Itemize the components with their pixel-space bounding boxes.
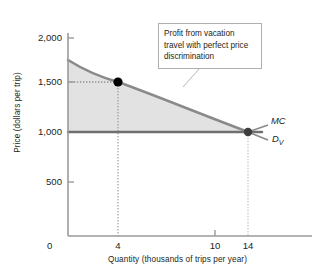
profit-callout-box: Profit from vacation travel with perfect… [158,23,262,69]
callout-leader-line [183,68,200,87]
y-tick-label-500: 500 [20,176,62,187]
mc-demand-intersection-point [244,128,252,136]
y-tick-label-1000: 1,000 [20,126,62,137]
dv-curve-label-main: D [272,133,279,144]
y-tick-label-2000: 2,000 [20,32,62,43]
origin-label: 0 [47,240,52,251]
y-axis-title: Price (dollars per trip) [13,58,22,168]
x-tick-label-4: 4 [103,240,133,251]
x-tick-label-10: 10 [200,240,230,251]
y-tick-label-1500: 1,500 [20,76,62,87]
chart-figure: Price (dollars per trip) Quantity (thous… [0,0,320,271]
dv-curve-label: DV [272,133,283,146]
mc-curve-label: MC [271,115,286,126]
x-tick-label-14: 14 [233,240,263,251]
x-axis-title: Quantity (thousands of trips per year) [108,255,247,264]
price-discrimination-point [113,77,122,86]
dv-curve-label-subscript: V [279,139,284,146]
